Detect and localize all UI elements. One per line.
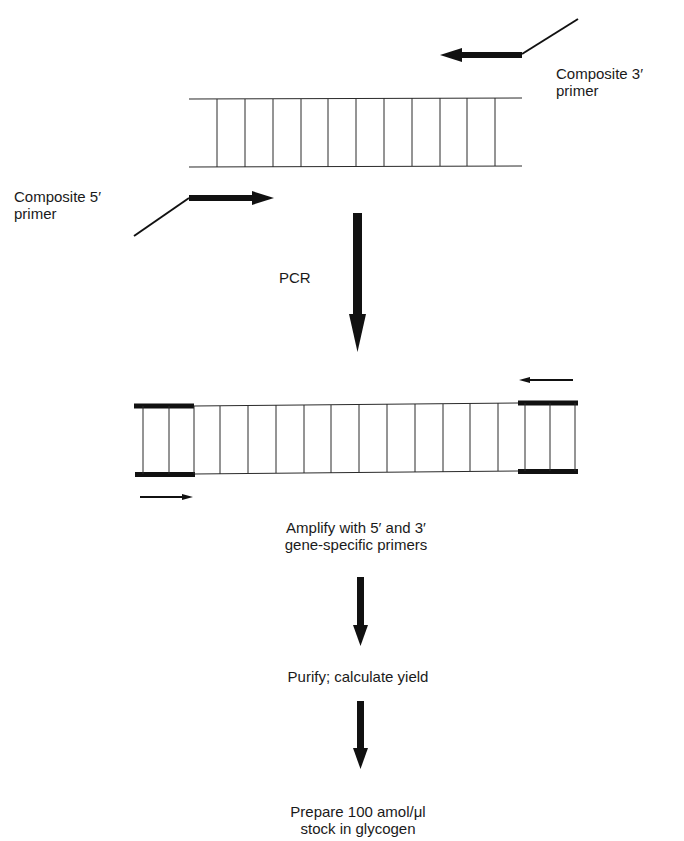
amplify-step-label-line2: gene-specific primers bbox=[285, 536, 428, 553]
purify-step-label: Purify; calculate yield bbox=[288, 668, 429, 685]
composite-5-primer-label-line1: Composite 5′ bbox=[14, 188, 101, 205]
amplify-step-label: Amplify with 5′ and 3′ gene-specific pri… bbox=[285, 519, 428, 553]
prepare-step-label: Prepare 100 amol/μl stock in glycogen bbox=[290, 803, 425, 837]
template-dna-ladder bbox=[189, 98, 522, 167]
purify-down-arrow bbox=[353, 701, 368, 769]
composite-3-primer-label: Composite 3′ primer bbox=[556, 65, 643, 99]
gene-specific-5-primer-arrow bbox=[140, 494, 193, 500]
amplify-down-arrow bbox=[353, 577, 368, 646]
composite-3-primer-label-line2: primer bbox=[556, 82, 643, 99]
amplify-step-label-line1: Amplify with 5′ and 3′ bbox=[285, 519, 428, 536]
pcr-label: PCR bbox=[279, 269, 311, 286]
composite-3-primer-arrow bbox=[440, 19, 578, 62]
composite-3-primer-label-line1: Composite 3′ bbox=[556, 65, 643, 82]
composite-5-primer-arrow bbox=[134, 191, 274, 236]
gene-specific-3-primer-arrow bbox=[519, 377, 573, 383]
pcr-workflow-diagram bbox=[0, 0, 684, 841]
prepare-step-label-line2: stock in glycogen bbox=[290, 820, 425, 837]
prepare-step-label-line1: Prepare 100 amol/μl bbox=[290, 803, 425, 820]
composite-5-primer-label-line2: primer bbox=[14, 205, 101, 222]
composite-5-primer-label: Composite 5′ primer bbox=[14, 188, 101, 222]
pcr-product-ladder bbox=[134, 403, 578, 475]
pcr-down-arrow bbox=[349, 213, 366, 352]
